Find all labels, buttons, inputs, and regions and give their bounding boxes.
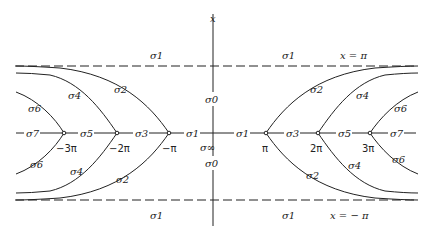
curve-label: σ2 [116, 174, 129, 185]
curve-label: σ4 [348, 160, 361, 171]
axis-segment-label: σ5 [80, 128, 93, 139]
branch-point-label: −π [162, 143, 176, 154]
axis-segment-label: σ3 [135, 128, 148, 139]
axis-segment-label: σ5 [338, 128, 351, 139]
axis-segment-label: σ3 [286, 128, 299, 139]
curve-label: σ6 [394, 103, 408, 114]
branch-point-label: 3π [362, 143, 374, 154]
curve-sigma2-upper-left [16, 66, 169, 133]
label-x-equals-minus-pi: x = − π [330, 210, 369, 221]
curve-label: σ6 [28, 103, 42, 114]
axis-segment-label: σ1 [186, 128, 199, 139]
region-label-bottom-right: σ1 [282, 210, 295, 221]
curve-sigma2-upper-right [266, 66, 418, 133]
curve-label: σ6 [30, 159, 44, 170]
region-label-top-left: σ1 [150, 50, 163, 61]
branch-diagram: x x = π x = − π σ1 σ1 σ1 σ1 σ0 σ0 σ∞ σ7 … [0, 0, 430, 236]
branch-point-label: −3π [56, 143, 77, 154]
curve-label: σ2 [306, 170, 319, 181]
axis-label-x: x [210, 13, 216, 24]
center-label-upper: σ0 [205, 94, 219, 105]
center-label-origin: σ∞ [200, 142, 215, 153]
curve-label: σ4 [70, 166, 83, 177]
axis-segment-label: σ7 [390, 128, 404, 139]
center-label-lower: σ0 [205, 158, 219, 169]
axis-segment-label: σ1 [236, 128, 249, 139]
curve-label: σ2 [114, 84, 127, 95]
branch-point-label: −2π [109, 143, 130, 154]
region-label-top-right: σ1 [282, 50, 295, 61]
curve-label: σ2 [310, 84, 323, 95]
curve-label: σ6 [392, 154, 406, 165]
branch-point-label: π [262, 143, 268, 154]
curve-sigma2-lower-right [266, 133, 418, 200]
axis-segment-label: σ7 [26, 128, 40, 139]
label-x-equals-pi: x = π [340, 50, 367, 61]
branch-point-label: 2π [310, 143, 322, 154]
curve-label: σ4 [68, 90, 81, 101]
region-label-bottom-left: σ1 [150, 210, 163, 221]
curve-label: σ4 [356, 90, 369, 101]
